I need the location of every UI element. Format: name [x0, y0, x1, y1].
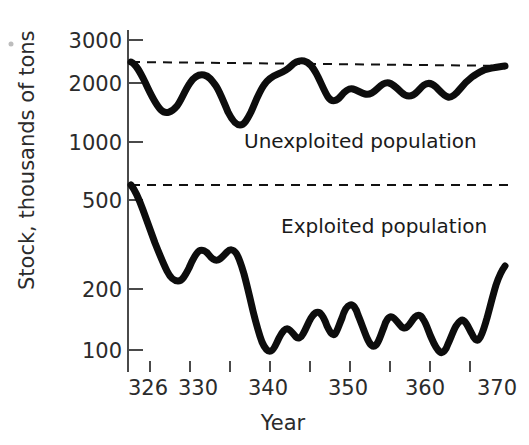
annotation-unexploited-population: Unexploited population: [244, 129, 477, 153]
y-tick-label-1000: 1000: [69, 131, 122, 155]
y-tick-label-200: 200: [82, 278, 122, 302]
y-tick-label-100: 100: [82, 339, 122, 363]
y-tick-label-3000: 3000: [69, 29, 122, 53]
y-tick-label-2000: 2000: [69, 72, 122, 96]
chart-plot-area: 3000 2000 1000 500 200 100 Stock, thousa…: [0, 0, 529, 445]
reference-line-unexploited: [131, 62, 513, 66]
x-tick-label-370: 370: [477, 376, 517, 400]
series-curve-unexploited: [131, 61, 505, 125]
annotation-exploited-population: Exploited population: [281, 214, 487, 238]
x-tick-label-340: 340: [248, 376, 288, 400]
chart-figure: 3000 2000 1000 500 200 100 Stock, thousa…: [0, 0, 529, 445]
y-axis-tick-labels: 3000 2000 1000 500 200 100: [69, 29, 122, 363]
x-tick-label-330: 330: [178, 376, 218, 400]
y-axis-title: Stock, thousands of tons: [15, 31, 39, 291]
x-tick-label-326: 326: [128, 376, 168, 400]
x-axis-title: Year: [260, 411, 306, 435]
y-tick-label-500: 500: [82, 189, 122, 213]
paper-speck: [9, 42, 14, 47]
x-axis-ticks: [128, 361, 470, 372]
series-curve-exploited: [131, 185, 505, 353]
x-tick-label-350: 350: [328, 376, 368, 400]
x-axis-tick-labels: 326 330 340 350 360 370: [128, 376, 517, 400]
x-tick-label-360: 360: [405, 376, 445, 400]
